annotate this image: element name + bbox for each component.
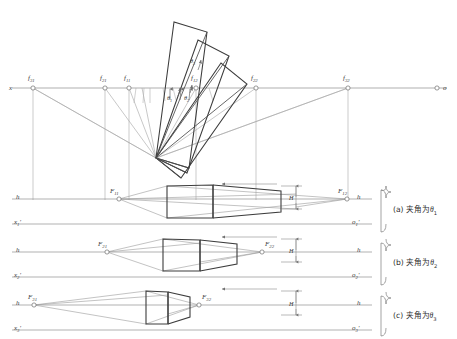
station-label-f22: f22 <box>251 74 258 83</box>
panel-a-left-horizon-label: h <box>16 193 20 201</box>
panel-b-vp-right-label: F22 <box>265 240 274 249</box>
panel-a-right-ground-label: o1′ <box>352 218 359 227</box>
panel-b-left-horizon-label: h <box>16 246 20 254</box>
station-label-f31: f31 <box>28 74 35 83</box>
station-rays <box>33 88 348 158</box>
panel-a-vp-left-label: F11 <box>110 187 119 196</box>
panel-b-left-ground-label: x2′ <box>14 271 21 280</box>
panel-c-left-horizon-label: h <box>16 299 20 307</box>
panel-c-caption: (c) 夹角为θ3 <box>393 309 437 322</box>
station-label-f12: f12 <box>191 74 198 83</box>
panel-b-right-horizon-label: h <box>357 246 361 254</box>
panel-c-left-ground-label: x3′ <box>14 324 21 333</box>
panel-c-brace <box>381 292 391 336</box>
panel-a-vanishing-rays <box>119 186 347 218</box>
panel-b-vanishing-rays <box>107 239 262 271</box>
panel-c-vp-left-label: F31 <box>28 293 37 302</box>
panel-a-brace <box>381 186 391 198</box>
panel-a-left-ground-label: x1′ <box>14 218 21 227</box>
plan-construction <box>12 22 447 200</box>
panel-c-right-ground-label: o3′ <box>352 324 359 333</box>
panel-a-height-label: H <box>289 194 293 201</box>
figure-canvas: x o f31 f21 f11 f12 f22 f32 θ1 θ2 θ3 h x… <box>0 0 457 339</box>
angle-label-theta2: θ2 <box>184 94 189 103</box>
angle-label-theta3: θ3 <box>190 57 195 66</box>
panel-a-brace-tail <box>381 190 386 232</box>
panel-a-vp-right-label: F12 <box>338 187 347 196</box>
panel-c-vp-right-label: F32 <box>202 293 211 302</box>
axis-label-x: x <box>9 84 12 92</box>
panel-b <box>12 237 391 285</box>
perspective-base-rays <box>33 88 348 200</box>
station-label-f11: f11 <box>124 74 130 83</box>
panel-a-caption: (a) 夹角为θ1 <box>393 203 437 216</box>
panel-b-brace <box>381 239 391 285</box>
panel-a-right-horizon-label: h <box>357 193 361 201</box>
panel-b-right-ground-label: o2′ <box>352 271 359 280</box>
panel-c-right-horizon-label: h <box>357 299 361 307</box>
panel-b-height-label: H <box>289 247 293 254</box>
axis-label-o: o <box>443 84 447 92</box>
panel-b-caption: (b) 夹角为θ2 <box>393 256 437 269</box>
panel-a <box>12 184 391 232</box>
angle-label-theta1: θ1 <box>167 94 172 103</box>
station-label-f21: f21 <box>100 74 107 83</box>
figure-svg <box>0 0 457 339</box>
panel-c-height-label: H <box>289 300 293 307</box>
station-label-f32: f32 <box>343 74 350 83</box>
panel-b-vp-left-label: F21 <box>98 240 107 249</box>
panel-c-vanishing-rays <box>34 291 199 324</box>
